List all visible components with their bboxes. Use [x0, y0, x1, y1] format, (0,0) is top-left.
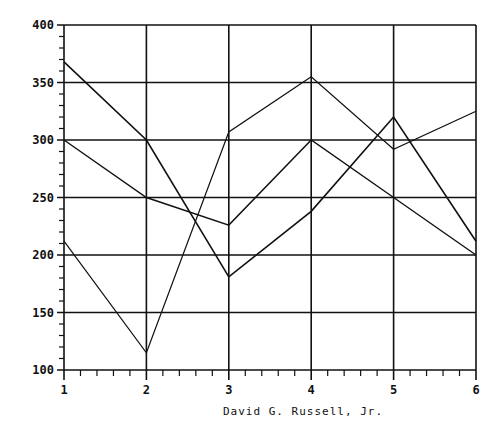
grid-lines: [57, 25, 476, 380]
y-tick-label: 300: [32, 133, 54, 147]
x-axis-labels: 123456: [60, 383, 479, 397]
axis-ticks: [59, 37, 460, 377]
x-tick-label: 6: [472, 383, 479, 397]
y-tick-label: 350: [32, 76, 54, 90]
y-axis-labels: 100150200250300350400: [32, 18, 54, 377]
y-tick-label: 100: [32, 363, 54, 377]
x-tick-label: 5: [390, 383, 397, 397]
chart-caption: David G. Russell, Jr.: [223, 405, 383, 418]
y-tick-label: 250: [32, 191, 54, 205]
x-tick-label: 1: [60, 383, 67, 397]
series-line: [64, 77, 476, 353]
data-series: [64, 62, 476, 353]
x-tick-label: 4: [308, 383, 315, 397]
x-tick-label: 3: [225, 383, 232, 397]
x-tick-label: 2: [143, 383, 150, 397]
series-line: [64, 62, 476, 277]
line-chart: 100150200250300350400 123456: [0, 0, 502, 439]
y-tick-label: 200: [32, 248, 54, 262]
y-tick-label: 400: [32, 18, 54, 32]
y-tick-label: 150: [32, 306, 54, 320]
